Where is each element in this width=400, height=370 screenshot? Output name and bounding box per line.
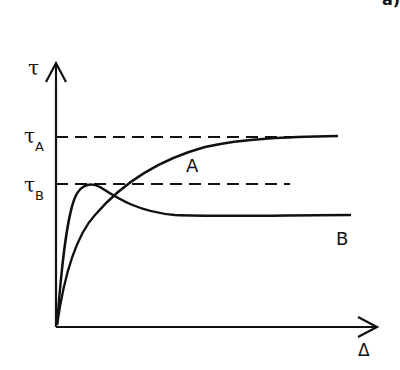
tau-a-subscript: A — [35, 139, 44, 154]
tau-b-subscript: B — [35, 188, 44, 203]
tau-b-symbol: τ — [24, 173, 35, 197]
x-axis-label: Δ — [358, 342, 370, 359]
curve-a-label: A — [186, 157, 198, 175]
diagram-canvas — [0, 0, 400, 370]
tau-a-symbol: τ — [24, 124, 35, 148]
y-axis-label: τ — [28, 58, 39, 78]
curve-b — [57, 185, 351, 325]
curve-b-label: B — [336, 230, 348, 248]
panel-label: a) — [382, 0, 400, 8]
tau-b-label: τB — [24, 175, 44, 195]
tau-a-label: τA — [24, 126, 44, 146]
